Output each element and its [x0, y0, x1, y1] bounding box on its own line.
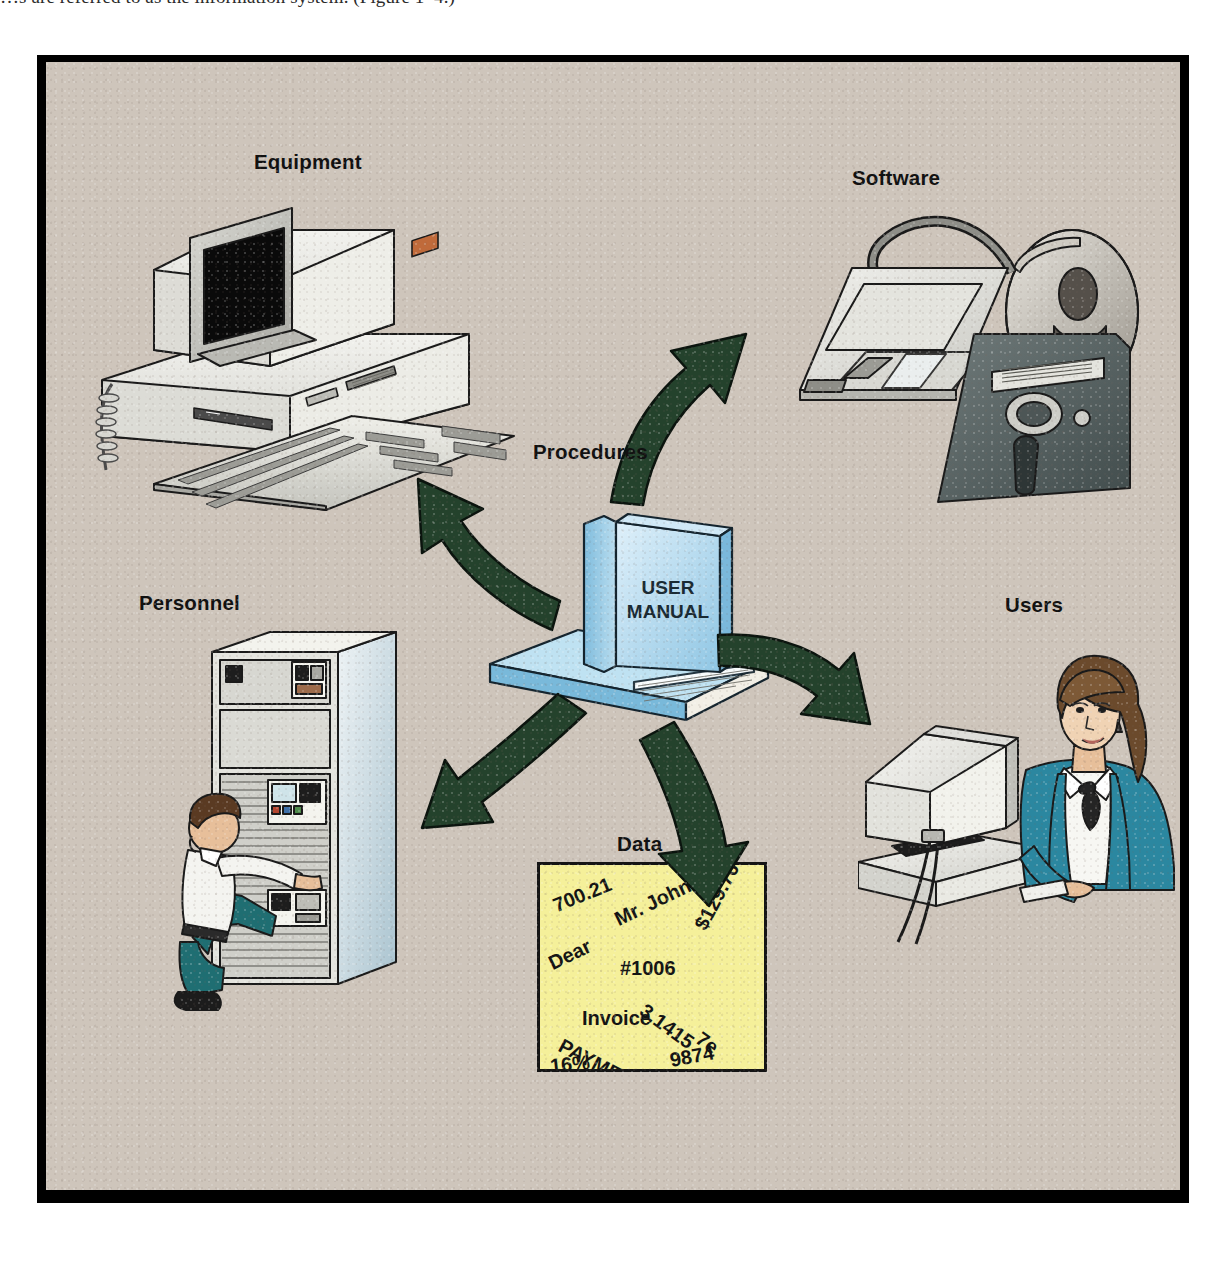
label-personnel: Personnel	[139, 591, 240, 615]
label-software: Software	[852, 166, 940, 190]
label-procedures: Procedures	[533, 440, 648, 464]
arrow-to-software	[611, 334, 746, 505]
page-running-text: …s are referred to as the information sy…	[0, 0, 1226, 8]
arrow-to-personnel	[422, 694, 586, 828]
label-data: Data	[617, 832, 662, 856]
figure-canvas: .arw { fill: #24422c; stroke: #0b140e; s…	[46, 62, 1180, 1190]
arrow-to-users	[718, 635, 870, 724]
label-equipment: Equipment	[254, 150, 362, 174]
label-users: Users	[1005, 593, 1063, 617]
arrow-to-data	[640, 722, 748, 906]
figure-plate: .arw { fill: #24422c; stroke: #0b140e; s…	[37, 55, 1189, 1203]
arrow-layer: .arw { fill: #24422c; stroke: #0b140e; s…	[46, 62, 1180, 1190]
arrow-to-equipment	[418, 479, 560, 630]
